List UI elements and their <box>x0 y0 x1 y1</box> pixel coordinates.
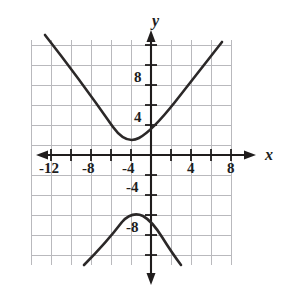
y-tick-label-pos8: 8 <box>134 70 142 85</box>
y-axis-label: y <box>152 13 159 29</box>
y-axis <box>145 30 157 285</box>
x-axis <box>36 149 256 161</box>
y-tick-label-neg8: -8 <box>126 220 139 235</box>
x-tick-label-pos8: 8 <box>227 161 235 176</box>
y-tick-label-neg4: -4 <box>126 180 139 195</box>
y-tick-label-pos4: 4 <box>134 110 142 125</box>
coordinate-plane <box>0 0 286 294</box>
x-axis-label: x <box>265 147 273 163</box>
graph-figure: -12 -8 -4 4 8 8 4 -4 -8 x y <box>0 0 286 294</box>
x-tick-label-neg4: -4 <box>122 161 135 176</box>
x-tick-label-neg12: -12 <box>39 161 59 176</box>
x-tick-label-neg8: -8 <box>82 161 95 176</box>
x-tick-label-pos4: 4 <box>187 161 195 176</box>
